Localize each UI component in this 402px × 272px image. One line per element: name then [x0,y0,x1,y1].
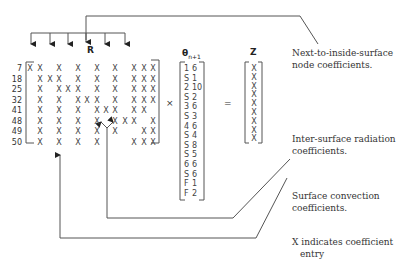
note-line: X indicates coefficient [292,236,393,248]
theta-entry-index: 6 [192,161,197,169]
note-line: Inter-surface radiation [292,133,396,145]
matrix-r-entry: X [149,65,157,73]
theta-entry-index: 6 [192,171,197,179]
matrix-r-entry: X [140,65,148,73]
note-line: coefficients. [292,145,396,157]
next-to-inside-leader [86,16,318,44]
z-bracket-left [245,62,249,143]
matrix-r-label: R [87,45,94,55]
matrix-r-entry: X [74,128,82,136]
theta-entry-index: 4 [192,132,197,140]
matrix-r-entry: X [36,86,44,94]
theta-entry-index: 5 [192,151,197,159]
vector-z-entry: X [250,74,258,82]
r-bracket-left [26,62,34,143]
matrix-r-entry: X [149,139,157,147]
matrix-r-entry: X [93,107,101,115]
matrix-r-entry: X [74,97,82,105]
matrix-r-entry: X [111,86,119,94]
matrix-r-entry: X [36,76,44,84]
matrix-r-entry: X [140,107,148,115]
matrix-r-row-label: 50 [6,139,22,147]
matrix-r-entry: X [55,118,63,126]
matrix-r-entry: X [93,86,101,94]
theta-subscript: n+1 [188,53,201,60]
matrix-r-entry: X [130,76,138,84]
matrix-r-entry: X [36,118,44,126]
theta-entry-index: 6 [192,103,197,111]
matrix-r-entry: X [121,118,129,126]
matrix-r-entry: X [130,107,138,115]
matrix-r-entry: X [140,97,148,105]
note-surface-convection: Surface convection coefficients. [292,190,380,214]
matrix-r-entry: X [111,76,119,84]
theta-entry-index: 1 [192,75,197,83]
matrix-r-entry: X [74,107,82,115]
matrix-r-row-label: 18 [6,76,22,84]
matrix-r-entry: X [140,139,148,147]
matrix-r-entry: X [74,139,82,147]
matrix-r-entry: X [55,128,63,136]
matrix-r-entry: X [36,107,44,115]
matrix-r-entry: X [111,118,119,126]
matrix-r-entry: X [130,65,138,73]
matrix-r-entry: X [111,97,119,105]
matrix-r-entry: X [74,118,82,126]
matrix-r-entry: X [140,76,148,84]
matrix-r-entry: X [55,65,63,73]
theta-entry-node: S [184,132,189,140]
note-line: entry [292,248,393,260]
matrix-r-entry: X [93,97,101,105]
matrix-r-entry: X [26,65,34,73]
matrix-r-entry: X [74,65,82,73]
vector-z-label: Z [250,47,257,57]
theta-entry-node: S [184,94,189,102]
matrix-r-entry: X [64,86,72,94]
vector-z-entry: X [250,109,258,117]
matrix-r-entry: X [74,76,82,84]
note-line: node coefficients. [292,59,393,71]
vector-z-entry: X [250,83,258,91]
theta-entry-index: 10 [192,84,202,92]
matrix-r-entry: X [74,86,82,94]
note-inter-surface: Inter-surface radiation coefficients. [292,133,396,157]
vector-z-entry: X [250,100,258,108]
matrix-r-entry: X [55,86,63,94]
theta-entry-node: 4 [184,123,189,131]
vector-z-entry: X [250,91,258,99]
multiply-operator: × [166,98,174,108]
matrix-r-entry: X [149,86,157,94]
matrix-r-entry: X [140,128,148,136]
matrix-r-entry: X [93,65,101,73]
theta-entry-node: F [184,180,189,188]
matrix-r-entry: X [111,107,119,115]
matrix-r-row-label: 25 [6,86,22,94]
theta-entry-index: 2 [192,190,197,198]
matrix-r-entry: X [36,97,44,105]
matrix-r-entry: X [130,97,138,105]
note-line: Next-to-inside-surface [292,47,393,59]
matrix-r-entry: X [36,65,44,73]
theta-entry-node: F [184,190,189,198]
matrix-r-entry: X [140,86,148,94]
vector-z-entry: X [250,65,258,73]
theta-entry-node: 6 [184,161,189,169]
matrix-r-entry: X [83,97,91,105]
note-line: Surface convection [292,190,380,202]
matrix-r-entry: X [93,118,101,126]
matrix-r-entry: X [55,97,63,105]
equals-operator: = [224,98,232,108]
theta-entry-node: 1 [184,65,189,73]
matrix-r-row-label: 41 [6,107,22,115]
matrix-r-row-label: 48 [6,118,22,126]
theta-entry-index: 6 [192,123,197,131]
note-legend: X indicates coefficient entry [292,236,393,260]
matrix-r-entry: X [93,128,101,136]
theta-entry-index: 2 [192,94,197,102]
note-line: coefficients. [292,202,380,214]
matrix-r-entry: X [46,76,54,84]
theta-entry-node: S [184,113,189,121]
vector-z-entry: X [250,135,258,143]
theta-vector-label: θn+1 [182,48,201,60]
matrix-r-entry: X [111,128,119,136]
